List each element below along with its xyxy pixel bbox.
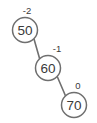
balance-factor-70: 0 bbox=[75, 80, 80, 91]
edge-60-to-70 bbox=[57, 76, 66, 97]
balance-factor-60: -1 bbox=[53, 43, 61, 54]
node-value-50: 50 bbox=[17, 23, 32, 38]
edge-50-to-60 bbox=[34, 39, 40, 60]
tree-node-50[interactable]: 50 bbox=[13, 18, 38, 43]
tree-node-60[interactable]: 60 bbox=[36, 56, 61, 81]
node-value-60: 60 bbox=[40, 61, 55, 76]
balance-factor-50: -2 bbox=[23, 5, 31, 16]
avl-tree-diagram: 50 -2 60 -1 70 0 bbox=[0, 0, 97, 123]
node-value-70: 70 bbox=[66, 98, 81, 113]
tree-canvas: 50 -2 60 -1 70 0 bbox=[0, 0, 97, 123]
tree-node-70[interactable]: 70 bbox=[62, 93, 87, 118]
